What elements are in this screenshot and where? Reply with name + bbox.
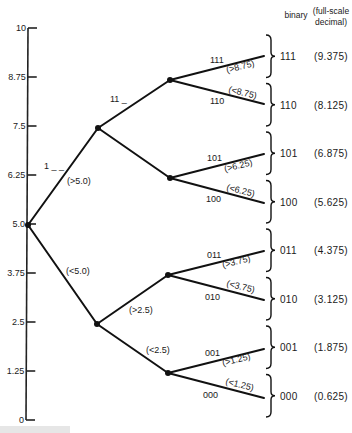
- figure-caption-cutoff: [0, 426, 70, 433]
- output-brace-010: [266, 278, 275, 321]
- branch-code-000: 000: [203, 390, 218, 400]
- header-decimal-line2: decimal): [315, 17, 347, 27]
- output-decimal-111: (9.375): [314, 51, 348, 62]
- tree-nodes: [25, 77, 173, 376]
- label-condition-lt-2-5: (<2.5): [146, 345, 170, 355]
- node-root: [25, 222, 31, 228]
- output-decimal-000: (0.625): [314, 391, 348, 402]
- output-brace-111: [266, 35, 275, 78]
- output-binary-010: 010: [280, 294, 298, 305]
- node-01: [165, 272, 171, 278]
- axis-tick-label: 10: [16, 23, 26, 33]
- output-binary-110: 110: [280, 100, 297, 111]
- axis-tick-label: 8.75: [8, 72, 26, 82]
- header-binary: binary: [284, 10, 308, 20]
- output-binary-000: 000: [280, 391, 298, 402]
- output-decimal-010: (3.125): [314, 294, 348, 305]
- binary-search-tree-diagram: 108.757.56.255.03.752.51.250 binary (ful…: [0, 0, 352, 433]
- axis-tick-label: 0: [19, 415, 24, 425]
- header-decimal-line1: (full-scale: [313, 6, 350, 16]
- output-decimal-110: (8.125): [314, 100, 348, 111]
- branch-code-001: 001: [205, 348, 220, 358]
- branch-condition-010: (<3.75): [226, 278, 256, 295]
- label-condition-gt-2-5: (>2.5): [129, 305, 153, 315]
- output-brace-100: [266, 181, 275, 224]
- axis-tick-label: 7.5: [13, 121, 26, 131]
- output-binary-100: 100: [280, 197, 298, 208]
- output-binary-001: 001: [280, 342, 298, 353]
- output-binary-101: 101: [280, 148, 298, 159]
- branch-condition-011: (>3.75): [221, 253, 251, 270]
- output-brace-011: [266, 229, 275, 272]
- axis-ticks: 108.757.56.255.03.752.51.250: [7, 23, 37, 425]
- output-decimal-001: (1.875): [314, 342, 348, 353]
- output-brace-000: [266, 375, 275, 418]
- label-code-11x: 11 _: [110, 94, 128, 104]
- branch-code-111: 111: [210, 55, 224, 65]
- axis-tick-label: 6.25: [8, 170, 26, 180]
- output-brace-101: [266, 132, 275, 175]
- axis-tick-label: 5.0: [12, 219, 25, 229]
- label-condition-gt-5: (>5.0): [67, 176, 91, 186]
- branch-code-011: 011: [207, 250, 221, 260]
- node-10: [167, 175, 173, 181]
- label-condition-lt-5: (<5.0): [66, 266, 90, 276]
- output-labels: 111(9.375)110(8.125)101(6.875)100(5.625)…: [280, 51, 348, 402]
- edge-l1-lower-upper: [97, 275, 168, 324]
- axis-tick-label: 1.25: [7, 366, 25, 376]
- branch-code-010: 010: [205, 292, 220, 302]
- branch-condition-000: (<1.25): [225, 376, 255, 393]
- branch-code-101: 101: [207, 153, 222, 163]
- edge-l1-upper-lower: [98, 128, 170, 178]
- node-11: [167, 77, 173, 83]
- branch-condition-111: (>8.75): [225, 58, 255, 75]
- output-decimal-101: (6.875): [314, 148, 348, 159]
- branch-condition-001: (>1.25): [221, 351, 251, 368]
- node-1: [95, 125, 101, 131]
- output-decimal-100: (5.625): [314, 197, 348, 208]
- axis-tick-label: 2.5: [12, 317, 25, 327]
- branch-condition-101: (>6.25): [223, 157, 253, 174]
- output-decimal-011: (4.375): [314, 245, 348, 256]
- edge-l1-upper-upper: [98, 80, 170, 128]
- output-brace-001: [266, 326, 275, 369]
- output-binary-011: 011: [280, 245, 297, 256]
- axis-tick-label: 3.75: [7, 268, 25, 278]
- output-braces: [266, 35, 275, 417]
- branch-labels: 111 (>8.75) (<8.75) 110 101 (>6.25) (<6.…: [203, 55, 258, 400]
- label-code-1xx: 1 _ _: [44, 161, 65, 171]
- branch-code-110: 110: [210, 96, 224, 106]
- output-binary-111: 111: [280, 51, 296, 62]
- node-0: [94, 321, 100, 327]
- node-00: [165, 370, 171, 376]
- output-brace-110: [266, 84, 275, 127]
- branch-code-100: 100: [206, 194, 221, 204]
